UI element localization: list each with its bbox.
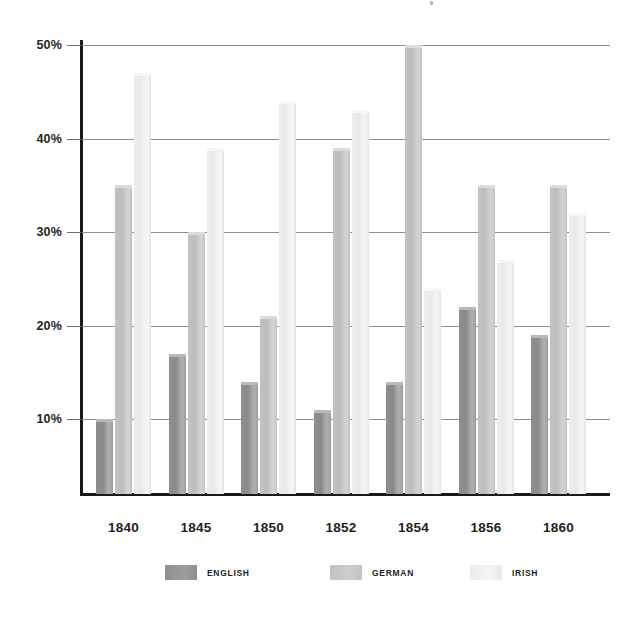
bar-group-1856 xyxy=(459,45,514,494)
bar-top-cap xyxy=(279,101,296,104)
y-axis-tick-label: 10% xyxy=(0,413,62,426)
legend-swatch-german xyxy=(330,565,362,580)
y-tick-mark xyxy=(67,139,81,140)
bar-irish-1852 xyxy=(352,110,369,494)
y-axis-tick-label: 30% xyxy=(0,226,62,239)
bar-german-1845 xyxy=(188,232,205,494)
bar-top-cap xyxy=(188,232,205,235)
legend-item-german[interactable]: GERMAN xyxy=(330,565,414,580)
bar-face xyxy=(531,335,548,494)
bar-face xyxy=(386,382,403,494)
bar-face xyxy=(550,185,567,494)
y-axis-tick-label: 50% xyxy=(0,39,62,52)
bar-top-cap xyxy=(497,260,514,263)
bar-chart: 10%20%30%40%50% 184018451850185218541856… xyxy=(0,0,625,621)
x-axis-label-1850: 1850 xyxy=(234,520,304,535)
bar-top-cap xyxy=(260,316,277,319)
bar-face xyxy=(333,148,350,494)
bar-german-1840 xyxy=(115,185,132,494)
bar-top-cap xyxy=(478,185,495,188)
bar-top-cap xyxy=(352,110,369,113)
bar-group-1840 xyxy=(96,45,151,494)
bar-top-cap xyxy=(386,382,403,385)
x-axis-label-1860: 1860 xyxy=(524,520,594,535)
bar-face xyxy=(188,232,205,494)
bar-face xyxy=(424,288,441,494)
bar-top-cap xyxy=(207,148,224,151)
bar-group-1850 xyxy=(241,45,296,494)
bar-top-cap xyxy=(424,288,441,291)
bar-german-1856 xyxy=(478,185,495,494)
bar-irish-1860 xyxy=(569,213,586,494)
x-axis-label-1854: 1854 xyxy=(379,520,449,535)
bar-irish-1856 xyxy=(497,260,514,494)
bar-group-1845 xyxy=(169,45,224,494)
y-axis-tick-label: 40% xyxy=(0,133,62,146)
bar-german-1852 xyxy=(333,148,350,494)
bar-english-1860 xyxy=(531,335,548,494)
bar-face xyxy=(569,213,586,494)
bar-english-1840 xyxy=(96,419,113,494)
bar-face xyxy=(352,110,369,494)
bar-top-cap xyxy=(459,307,476,310)
y-axis-tick-label: 20% xyxy=(0,320,62,333)
bar-face xyxy=(96,419,113,494)
bar-top-cap xyxy=(569,213,586,216)
legend-item-irish[interactable]: IRISH xyxy=(470,565,538,580)
bar-face xyxy=(279,101,296,494)
y-tick-mark xyxy=(67,232,81,233)
bar-german-1860 xyxy=(550,185,567,494)
bar-top-cap xyxy=(134,73,151,76)
y-tick-mark xyxy=(67,326,81,327)
legend-label-irish: IRISH xyxy=(512,568,538,578)
bar-face xyxy=(314,410,331,494)
bar-english-1850 xyxy=(241,382,258,494)
bar-irish-1845 xyxy=(207,148,224,494)
legend-swatch-english xyxy=(165,565,197,580)
bar-top-cap xyxy=(405,45,422,48)
x-axis-label-1856: 1856 xyxy=(451,520,521,535)
bar-top-cap xyxy=(115,185,132,188)
x-axis-label-1845: 1845 xyxy=(161,520,231,535)
bar-irish-1850 xyxy=(279,101,296,494)
bar-top-cap xyxy=(96,419,113,422)
y-tick-mark xyxy=(67,419,81,420)
bar-face xyxy=(405,45,422,494)
legend-label-english: ENGLISH xyxy=(207,568,250,578)
legend-item-english[interactable]: ENGLISH xyxy=(165,565,250,580)
bar-top-cap xyxy=(241,382,258,385)
bar-face xyxy=(241,382,258,494)
stray-mark-icon xyxy=(430,1,433,5)
bar-english-1845 xyxy=(169,354,186,494)
x-axis-label-1840: 1840 xyxy=(89,520,159,535)
bar-face xyxy=(260,316,277,494)
bar-group-1852 xyxy=(314,45,369,494)
bar-top-cap xyxy=(169,354,186,357)
legend-swatch-irish xyxy=(470,565,502,580)
bar-irish-1840 xyxy=(134,73,151,494)
bar-group-1860 xyxy=(531,45,586,494)
bar-top-cap xyxy=(333,148,350,151)
bar-german-1850 xyxy=(260,316,277,494)
bar-top-cap xyxy=(550,185,567,188)
x-axis-label-1852: 1852 xyxy=(306,520,376,535)
bar-face xyxy=(169,354,186,494)
bar-english-1854 xyxy=(386,382,403,494)
bar-face xyxy=(115,185,132,494)
bar-top-cap xyxy=(531,335,548,338)
bar-group-1854 xyxy=(386,45,441,494)
chart-legend: ENGLISHGERMANIRISH xyxy=(0,565,625,589)
plot-area xyxy=(82,45,610,494)
y-tick-mark xyxy=(67,45,81,46)
bar-top-cap xyxy=(314,410,331,413)
bar-english-1856 xyxy=(459,307,476,494)
bar-irish-1854 xyxy=(424,288,441,494)
bar-german-1854 xyxy=(405,45,422,494)
bar-face xyxy=(134,73,151,494)
legend-label-german: GERMAN xyxy=(372,568,414,578)
bar-face xyxy=(478,185,495,494)
bar-face xyxy=(459,307,476,494)
bar-face xyxy=(207,148,224,494)
bar-english-1852 xyxy=(314,410,331,494)
bar-face xyxy=(497,260,514,494)
